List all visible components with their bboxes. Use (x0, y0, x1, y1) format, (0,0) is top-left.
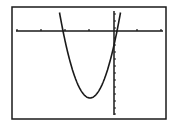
graph-frame (12, 7, 166, 119)
graph-screen (0, 0, 169, 124)
parabola-curve (60, 13, 121, 99)
